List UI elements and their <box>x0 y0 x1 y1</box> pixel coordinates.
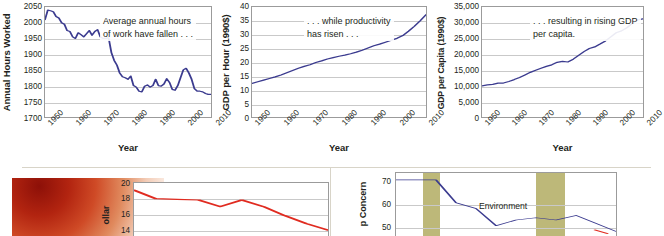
y-tick: 15 <box>240 72 249 81</box>
chart1-y-axis-label: Annual Hours Worked <box>0 0 14 125</box>
bottom-left-data-line <box>134 183 328 236</box>
chart3-y-axis-label: GDP per Capita (1990$) <box>434 0 448 125</box>
bottom-left-y-ticks: 20 18 16 14 <box>110 178 130 236</box>
x-tick: 2010 <box>645 108 664 127</box>
y-tick: 10 <box>240 86 249 95</box>
chart1-plot-area: Average annual hours of work have fallen… <box>44 6 212 118</box>
chart1-y-ticks: 2050 2000 1950 1900 1850 1800 1750 1700 <box>14 0 42 125</box>
y-tick: 1850 <box>24 66 42 75</box>
y-tick: 2050 <box>24 2 42 11</box>
y-tick: 1900 <box>24 50 42 59</box>
chart3-x-axis-title: Year <box>481 142 644 153</box>
y-tick: 20,000 <box>454 50 479 59</box>
y-tick: 15,000 <box>454 66 479 75</box>
bottom-right-panel: p Concern 70 60 50 Environment <box>331 168 651 236</box>
y-tick: 30 <box>240 30 249 39</box>
y-tick: 1750 <box>24 98 42 107</box>
y-tick: 20 <box>121 179 130 188</box>
y-tick: 60 <box>382 200 391 209</box>
y-tick: 18 <box>121 194 130 203</box>
y-tick: 20 <box>240 58 249 67</box>
chart2-x-axis-title: Year <box>251 142 427 153</box>
chart1-annotation: Average annual hours of work have fallen… <box>100 14 196 41</box>
chart-gdp-per-hour: GDP per Hour (1990$) 40 35 30 25 20 15 1… <box>218 0 434 160</box>
bottom-left-panel: ollar 20 18 16 14 <box>0 168 330 236</box>
y-tick: 0 <box>474 114 479 123</box>
chart2-plot-area: . . . while productivity has risen . . . <box>251 6 427 118</box>
bottom-right-y-axis-label: p Concern <box>356 176 370 232</box>
chart-gdp-per-capita: GDP per Capita (1990$) 35,000 30,000 25,… <box>434 0 651 160</box>
y-tick: 70 <box>382 177 391 186</box>
bottom-right-plot-area: Environment <box>395 172 617 236</box>
y-tick: 1800 <box>24 82 42 91</box>
chart3-plot-area: . . . resulting in rising GDP per capita… <box>481 6 644 118</box>
y-tick: 16 <box>121 210 130 219</box>
top-chart-row: Annual Hours Worked 2050 2000 1950 1900 … <box>0 0 651 160</box>
chart-annual-hours-worked: Annual Hours Worked 2050 2000 1950 1900 … <box>0 0 218 160</box>
y-tick: 0 <box>244 114 249 123</box>
chart2-y-ticks: 40 35 30 25 20 15 10 5 0 <box>232 0 249 125</box>
chart3-annotation: . . . resulting in rising GDP per capita… <box>530 14 641 41</box>
chart2-y-axis-label: GDP per Hour (1990$) <box>218 0 232 125</box>
chart-bottom-left: ollar 20 18 16 14 <box>100 178 330 236</box>
y-tick: 1700 <box>24 114 42 123</box>
chart3-y-ticks: 35,000 30,000 25,000 20,000 15,000 10,00… <box>447 0 479 125</box>
bottom-right-series-label: Environment <box>479 201 527 211</box>
y-tick: 35,000 <box>454 2 479 11</box>
y-tick: 10,000 <box>454 82 479 91</box>
chart2-annotation: . . . while productivity has risen . . . <box>304 14 394 41</box>
y-tick: 40 <box>240 2 249 11</box>
bottom-right-y-ticks: 70 60 50 <box>369 168 391 236</box>
y-tick: 50 <box>382 223 391 232</box>
y-tick: 5,000 <box>459 98 480 107</box>
y-tick: 35 <box>240 16 249 25</box>
y-tick: 30,000 <box>454 18 479 27</box>
y-tick: 14 <box>121 226 130 235</box>
y-tick: 2000 <box>24 18 42 27</box>
bottom-left-plot-area <box>133 182 329 236</box>
y-tick: 1950 <box>24 34 42 43</box>
y-tick: 5 <box>244 100 249 109</box>
y-tick: 25,000 <box>454 34 479 43</box>
y-tick: 25 <box>240 44 249 53</box>
chart1-x-axis-title: Year <box>44 142 212 153</box>
